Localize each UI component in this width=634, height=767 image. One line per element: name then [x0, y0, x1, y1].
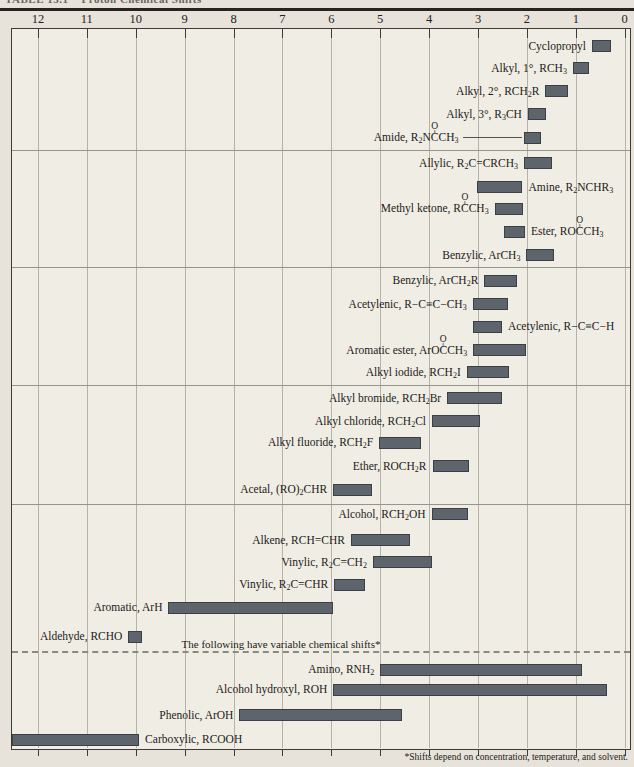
footnote: *Shifts depend on concentration, tempera… — [405, 752, 628, 762]
shift-range-bar — [495, 203, 524, 215]
shift-range-bar — [333, 484, 372, 496]
shift-range-bar — [467, 366, 510, 378]
carbonyl-carbon: CO‖ — [431, 131, 439, 144]
row-label: Alcohol, RCH2OH — [338, 508, 425, 522]
shift-range-bar — [473, 298, 508, 310]
row-label: Alkene, RCH=CHR — [252, 534, 345, 547]
shift-range-bar — [477, 181, 523, 193]
row-label: Alcohol hydroxyl, ROH — [216, 683, 327, 696]
section-divider — [12, 504, 630, 505]
axis-tick-label: 0 — [622, 12, 628, 27]
axis-tick-label: 8 — [230, 12, 236, 27]
grid-line — [625, 29, 626, 748]
shift-range-bar — [447, 392, 502, 404]
axis-tick-top — [234, 29, 235, 38]
row-label: Benzylic, ArCH3 — [442, 249, 520, 263]
axis-tick-top — [136, 29, 137, 38]
shift-range-bar — [433, 460, 470, 472]
row-label: Alkyl chloride, RCH2Cl — [315, 415, 426, 429]
row-label: Vinylic, R2C=CH2 — [282, 556, 367, 570]
grid-line — [38, 29, 39, 748]
shift-range-bar — [545, 85, 568, 97]
shift-range-bar — [524, 132, 541, 144]
axis-tick-top — [625, 29, 626, 38]
axis-tick-top — [429, 29, 430, 38]
shift-range-bar — [239, 709, 401, 721]
row-label: Vinylic, R2C=CHR — [239, 578, 328, 592]
carbonyl-oxygen: O‖ — [431, 122, 438, 134]
row-label: Ether, ROCH2R — [353, 460, 427, 474]
carbonyl-oxygen: O‖ — [440, 335, 447, 347]
row-label: Carboxylic, RCOOH — [145, 733, 242, 746]
axis-tick-top — [478, 29, 479, 38]
axis-tick-top — [380, 29, 381, 38]
shift-range-bar — [484, 275, 517, 287]
shift-range-bar — [473, 321, 502, 333]
shift-range-bar — [373, 556, 432, 568]
shift-range-bar — [12, 734, 139, 746]
shift-range-bar — [592, 40, 612, 52]
shift-range-bar — [128, 631, 142, 643]
axis-tick-label: 4 — [426, 12, 432, 27]
row-label: Acetal, (RO)2CHR — [240, 483, 327, 497]
shift-range-bar — [526, 249, 554, 261]
row-label: Acetylenic, R−C≡C−H — [508, 320, 614, 333]
label-leader-line — [463, 137, 522, 138]
row-label: Amino, RNH2 — [308, 663, 374, 677]
shift-range-bar — [334, 579, 365, 591]
row-label: Alkyl, 1°, RCH3 — [491, 62, 567, 76]
row-label: Alkyl, 2°, RCH2R — [456, 85, 539, 99]
axis-tick-label: 9 — [181, 12, 187, 27]
grid-line — [576, 29, 577, 748]
axis-tick-bottom — [282, 749, 283, 756]
shift-range-bar — [432, 415, 480, 427]
axis-tick-label: 1 — [573, 12, 579, 27]
axis-tick-label: 2 — [524, 12, 530, 27]
carbonyl-carbon: CO‖ — [439, 344, 447, 357]
row-label: Aromatic ester, ArOCO‖CH3 — [346, 344, 467, 358]
row-label: Phenolic, ArOH — [159, 709, 233, 722]
shift-range-bar — [379, 437, 421, 449]
section-divider — [12, 385, 630, 386]
axis-tick-label: 12 — [32, 12, 45, 27]
axis-tick-label: 10 — [129, 12, 142, 27]
axis-tick-bottom — [380, 749, 381, 756]
row-label: Cyclopropyl — [528, 40, 586, 53]
row-label: Alkyl iodide, RCH2I — [366, 366, 461, 380]
row-label: Alkyl bromide, RCH2Br — [329, 392, 441, 406]
proton-chemical-shifts-chart-page: TABLE 13.1 Proton Chemical Shifts 121110… — [0, 0, 634, 767]
row-label: Benzylic, ArCH2R — [393, 274, 479, 288]
axis-tick-top — [38, 29, 39, 38]
carbonyl-carbon: CO‖ — [576, 225, 584, 238]
axis-tick-bottom — [136, 749, 137, 756]
row-label: Allylic, R2C=CRCH3 — [419, 157, 518, 171]
section-divider — [12, 150, 630, 151]
row-label: Alkyl fluoride, RCH2F — [268, 436, 373, 450]
axis-tick-bottom — [185, 749, 186, 756]
axis-tick-bottom — [38, 749, 39, 756]
shift-range-bar — [351, 534, 410, 546]
axis-tick-top — [87, 29, 88, 38]
shift-range-bar — [524, 157, 552, 169]
row-label: Amine, R2NCHR3 — [528, 181, 613, 195]
shift-range-bar — [168, 602, 333, 614]
axis-tick-top — [331, 29, 332, 38]
carbonyl-carbon: CO‖ — [461, 202, 469, 215]
variable-section-dashed-divider — [12, 651, 630, 653]
row-label: Amide, R2NCO‖CH3 — [374, 131, 459, 145]
row-label: Ester, ROCO‖CH3 — [531, 225, 604, 239]
axis-tick-bottom — [331, 749, 332, 756]
row-label: Aldehyde, RCHO — [40, 630, 122, 643]
row-label: Aromatic, ArH — [93, 601, 162, 614]
row-label: Methyl ketone, RCO‖CH3 — [381, 202, 489, 216]
shift-range-bar — [473, 344, 526, 356]
carbonyl-oxygen: O‖ — [576, 216, 583, 228]
section-divider — [12, 267, 630, 268]
axis-tick-label: 3 — [475, 12, 481, 27]
shift-range-bar — [333, 684, 606, 696]
axis-tick-bottom — [87, 749, 88, 756]
axis-tick-label: 7 — [279, 12, 285, 27]
axis-tick-top — [185, 29, 186, 38]
axis-tick-top — [282, 29, 283, 38]
row-label: Acetylenic, R−C≡C−CH3 — [349, 298, 467, 312]
